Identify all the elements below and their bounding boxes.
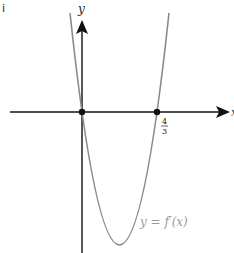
- graph: y x 4 3 y = f′(x): [0, 0, 234, 253]
- point-origin: [79, 109, 85, 115]
- curve-label: y = f′(x): [139, 215, 188, 229]
- root-label-denominator: 3: [162, 127, 167, 136]
- y-axis-label: y: [77, 2, 85, 16]
- curve-f-prime: [70, 13, 169, 245]
- x-axis-label: x: [231, 106, 234, 119]
- root-label-numerator: 4: [162, 117, 167, 126]
- point-root-4-3: [154, 109, 160, 115]
